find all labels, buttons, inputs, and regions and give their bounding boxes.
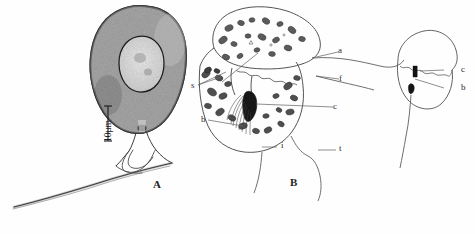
dark-basal-body-icon — [408, 84, 414, 94]
short-flagellum-icon — [116, 150, 156, 174]
scale-bar-label: 10μm — [103, 120, 113, 142]
connector-lines-ab — [312, 58, 404, 90]
leader-lines-c — [415, 70, 444, 88]
leader-a — [312, 52, 338, 58]
label-c-right: c — [461, 65, 465, 74]
left-shoulder-line — [200, 48, 214, 66]
label-b-right: b — [461, 83, 466, 92]
trailing-flagella-b — [254, 136, 321, 201]
leader-s-2 — [198, 77, 221, 85]
panel-a-micrograph — [13, 0, 195, 209]
detail-cell-outline-icon — [398, 30, 457, 70]
label-a: a — [338, 46, 342, 55]
leader-lines-b — [198, 52, 339, 150]
long-flagellum-icon — [13, 163, 172, 209]
panel-b-drawing — [198, 7, 404, 201]
granule-cluster-icon — [217, 17, 305, 61]
panel-a-label: A — [153, 179, 161, 190]
s-granule-pair-icon — [204, 66, 221, 74]
leader-b-right — [415, 79, 444, 88]
label-b: b — [201, 115, 206, 124]
flagellar-pocket-icon — [116, 131, 172, 166]
connector-a — [312, 58, 404, 68]
connector-f — [316, 76, 374, 90]
leader-c-right — [420, 70, 444, 71]
detail-flagellum-icon — [400, 95, 411, 168]
label-s: s — [191, 81, 195, 90]
panel-b-label: B — [290, 177, 298, 188]
label-i: i — [281, 141, 284, 150]
dark-rod-icon — [413, 66, 417, 77]
label-c: c — [333, 102, 337, 111]
scientific-figure: 10μm A s a f b c i t B c b — [0, 0, 475, 234]
figure-canvas — [0, 0, 475, 234]
flagellum-i-icon — [254, 152, 262, 193]
leader-c — [256, 104, 333, 107]
flagellum-t-icon — [291, 136, 321, 201]
label-f: f — [339, 74, 342, 83]
panel-c-detail — [397, 30, 457, 168]
pocket-lumen-icon — [138, 120, 146, 132]
leader-b — [208, 120, 243, 126]
label-t: t — [339, 144, 342, 153]
